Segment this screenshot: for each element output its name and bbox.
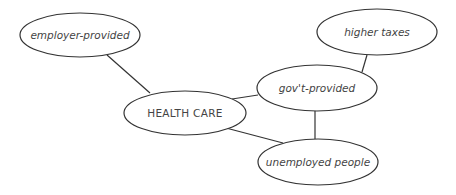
- node-health-care: HEALTH CARE: [124, 91, 246, 135]
- node-unemployed-people: unemployed people: [258, 139, 378, 185]
- node-employer-provided: employer-provided: [20, 13, 140, 57]
- node-higher-taxes: higher taxes: [317, 9, 437, 55]
- edge-health-gov: [232, 95, 258, 99]
- edge-employer-health: [107, 55, 150, 93]
- node-label: unemployed people: [266, 156, 370, 168]
- node-label: HEALTH CARE: [147, 107, 223, 119]
- node-label: higher taxes: [344, 26, 410, 38]
- concept-map: employer-provided higher taxes gov't-pro…: [0, 0, 456, 195]
- node-label: employer-provided: [30, 29, 130, 41]
- edge-health-unemployed: [226, 128, 283, 143]
- node-label: gov't-provided: [279, 82, 356, 94]
- node-govt-provided: gov't-provided: [257, 65, 377, 111]
- edge-gov-taxes: [362, 55, 367, 72]
